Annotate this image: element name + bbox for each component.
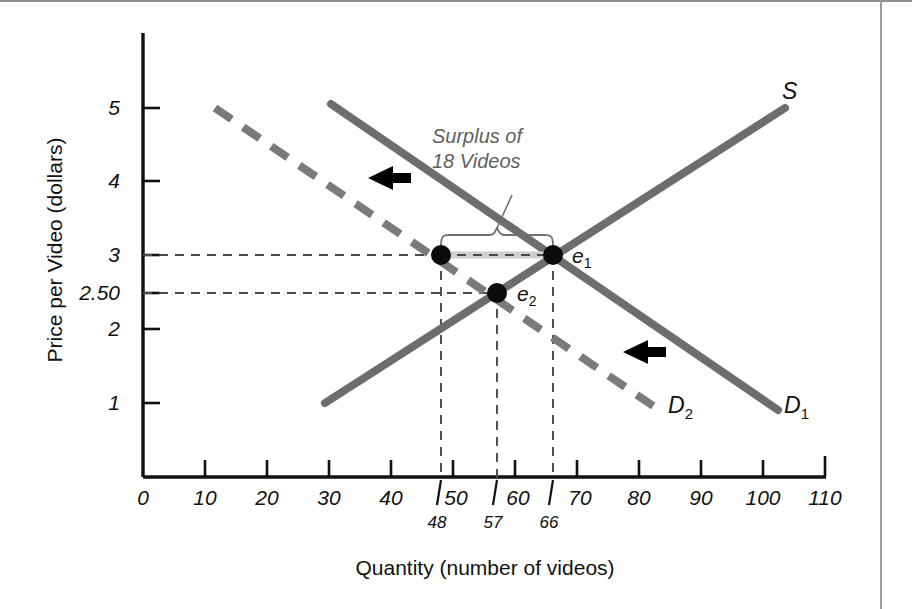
shift-arrow-lower-icon: [623, 340, 666, 364]
x-axis-ticks: [205, 456, 825, 477]
point-e2-label-sub: 2: [529, 293, 537, 309]
y-tick-label-4: 4: [60, 169, 120, 193]
point-e2: [487, 283, 507, 303]
demand-d2-label-text: D: [668, 392, 685, 418]
x-tick-label-0: 0: [123, 486, 163, 510]
x-axis-title: Quantity (number of videos): [143, 556, 827, 580]
y-tick-label-3: 3: [60, 243, 120, 267]
point-e1-label: e1: [572, 244, 591, 271]
demand-d1-label-sub: 1: [801, 405, 809, 422]
y-tick-label-250: 2.50: [36, 281, 120, 305]
x-tick-label-10: 10: [185, 486, 225, 510]
x-special-label-66: 66: [529, 513, 569, 533]
y-tick-label-1: 1: [60, 391, 120, 415]
y-tick-label-2: 2: [60, 317, 120, 341]
x-tick-label-100: 100: [738, 486, 788, 510]
x-special-label-48: 48: [417, 513, 457, 533]
x-tick-label-20: 20: [247, 486, 287, 510]
shift-arrow-upper-icon: [368, 166, 411, 190]
demand-curve-d2-label: D2: [668, 392, 693, 422]
x-tick-label-50: 50: [436, 486, 476, 510]
surplus-annotation-line2: 18 Videos: [432, 149, 622, 174]
x-tick-label-70: 70: [560, 486, 600, 510]
demand-curve-d1-label: D1: [784, 392, 809, 422]
point-surplus-left: [431, 245, 451, 265]
x-tick-label-110: 110: [800, 486, 850, 510]
point-e1-label-text: e: [572, 244, 584, 267]
surplus-annotation-line1: Surplus of: [432, 124, 622, 149]
point-e2-label: e2: [517, 282, 536, 309]
point-e1: [543, 245, 563, 265]
x-tick-label-60: 60: [498, 486, 538, 510]
y-tick-label-5: 5: [60, 96, 120, 120]
point-e2-label-text: e: [517, 282, 529, 305]
point-e1-label-sub: 1: [584, 255, 592, 271]
x-tick-label-90: 90: [681, 486, 721, 510]
x-special-label-57: 57: [473, 513, 513, 533]
x-tick-label-40: 40: [371, 486, 411, 510]
surplus-annotation: Surplus of 18 Videos: [432, 124, 622, 174]
demand-d2-label-sub: 2: [685, 405, 693, 422]
supply-curve-label-text: S: [782, 78, 797, 104]
x-tick-label-30: 30: [309, 486, 349, 510]
x-tick-label-80: 80: [619, 486, 659, 510]
demand-d1-label-text: D: [784, 392, 801, 418]
supply-curve-label: S: [782, 78, 797, 105]
supply-demand-figure: Price per Video (dollars) Quantity (numb…: [0, 0, 912, 609]
